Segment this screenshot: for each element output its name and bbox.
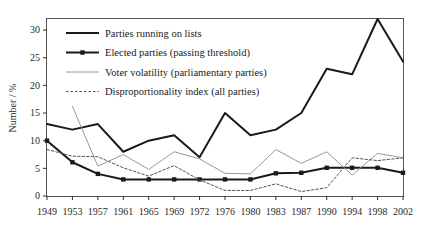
x-tick-label: 1987 [291,206,311,217]
x-tick-label: 1994 [342,206,362,217]
legend-label-0: Parties running on lists [105,28,202,39]
y-tick-label: 5 [35,163,40,174]
series-marker-1 [248,177,252,181]
series-marker-1 [96,172,100,176]
series-marker-1 [350,166,354,170]
legend-swatch-marker-1 [80,50,84,54]
y-tick-label: 20 [30,80,40,91]
y-axis-title: Number / % [7,84,18,133]
series-marker-1 [121,177,125,181]
x-tick-label: 1998 [368,206,388,217]
x-tick-label: 1983 [266,206,286,217]
x-tick-label: 1980 [240,206,260,217]
y-tick-label: 30 [30,24,40,35]
line-chart: 051015202530 194919531957196119651969197… [0,0,424,232]
series-marker-1 [172,177,176,181]
series-marker-1 [325,166,329,170]
series-layer [45,19,405,192]
series-marker-1 [274,171,278,175]
x-tick-label: 1972 [190,206,210,217]
y-axis-ticks: 051015202530 [30,24,47,201]
series-line-2 [72,106,403,175]
x-tick-label: 1949 [37,206,57,217]
y-tick-label: 25 [30,52,40,63]
y-tick-label: 15 [30,107,40,118]
legend-label-2: Voter volatility (parliamentary parties) [105,67,267,79]
series-marker-1 [401,171,405,175]
y-tick-label: 10 [30,135,40,146]
series-marker-1 [375,166,379,170]
x-tick-label: 2002 [393,206,413,217]
series-marker-1 [147,177,151,181]
y-tick-label: 0 [35,190,40,201]
chart-legend: Parties running on listsElected parties … [66,28,267,99]
series-marker-1 [299,171,303,175]
x-tick-label: 1976 [215,206,235,217]
x-tick-label: 1990 [317,206,337,217]
series-marker-1 [45,138,49,142]
series-marker-1 [223,177,227,181]
series-marker-1 [70,160,74,164]
x-tick-label: 1969 [164,206,184,217]
x-tick-label: 1965 [139,206,159,217]
x-axis-ticks: 1949195319571961196519691972197619801983… [37,196,413,217]
legend-label-3: Disproportionality index (all parties) [105,86,260,98]
x-tick-label: 1953 [62,206,82,217]
x-tick-label: 1957 [88,206,108,217]
x-tick-label: 1961 [113,206,133,217]
legend-label-1: Elected parties (passing threshold) [105,47,250,59]
series-line-3 [47,150,403,192]
chart-container: 051015202530 194919531957196119651969197… [0,0,424,232]
